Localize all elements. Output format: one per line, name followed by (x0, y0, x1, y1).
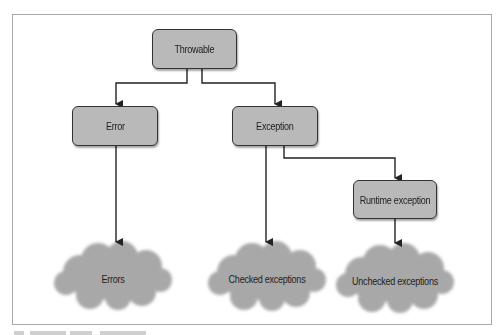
edge-throwable-exception (202, 69, 275, 104)
caption-truncated (100, 331, 146, 335)
node-throwable-label: Throwable (175, 43, 215, 55)
node-runtime-exception: Runtime exception (353, 180, 437, 219)
cloud-errors-label: Errors (101, 273, 124, 285)
caption-truncated (14, 331, 24, 335)
node-runtime-exception-label: Runtime exception (360, 194, 431, 206)
caption-truncated (30, 331, 66, 335)
edge-exception-runtime (284, 146, 395, 178)
edge-throwable-error (116, 69, 187, 104)
node-exception: Exception (232, 106, 318, 146)
node-exception-label: Exception (256, 120, 293, 132)
cloud-checked-label: Checked exceptions (229, 273, 306, 285)
node-throwable: Throwable (152, 29, 237, 69)
node-error: Error (72, 106, 158, 146)
caption-truncated (70, 331, 92, 335)
node-error-label: Error (106, 120, 125, 132)
cloud-unchecked-label: Unchecked exceptions (352, 275, 438, 287)
